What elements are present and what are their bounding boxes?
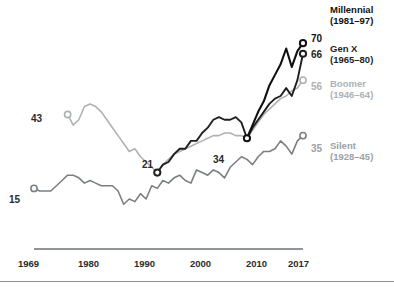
endpoint-marker-boomer-end <box>300 77 306 83</box>
start-value-genx: 21 <box>142 159 153 170</box>
legend-years-boomer: (1946–64) <box>330 89 373 100</box>
legend-years-genx: (1965–80) <box>330 54 373 65</box>
x-tick-2010: 2010 <box>246 258 267 269</box>
start-value-silent: 15 <box>9 194 20 205</box>
x-tick-2017: 2017 <box>288 258 309 269</box>
endpoint-marker-silent-end <box>300 133 306 139</box>
legend-years-millennial: (1981–97) <box>330 15 373 26</box>
series-line-genx <box>157 54 303 173</box>
legend-label-millennial: Millennial <box>330 4 373 15</box>
chart-container: ————————— Millennial (1981–97) Gen X (19… <box>0 0 394 290</box>
series-line-boomer <box>68 80 303 172</box>
legend-item-boomer: Boomer (1946–64) <box>330 78 373 100</box>
x-tick-1969: 1969 <box>18 258 39 269</box>
end-value-silent: 35 <box>311 143 322 154</box>
legend-years-silent: (1928–45) <box>330 151 373 162</box>
endpoint-marker-millennial-end <box>300 40 306 46</box>
legend-item-genx: Gen X (1965–80) <box>330 43 373 65</box>
bottom-divider <box>0 281 394 282</box>
endpoint-marker-gen-x-end <box>300 51 306 57</box>
endpoint-marker-millennial-start <box>244 135 250 141</box>
endpoint-markers-layer <box>31 40 306 191</box>
x-tick-1980: 1980 <box>78 258 99 269</box>
end-value-millennial: 70 <box>311 33 322 44</box>
legend-label-silent: Silent <box>330 140 373 151</box>
endpoint-marker-silent-start <box>31 185 37 191</box>
end-value-boomer: 56 <box>311 81 322 92</box>
series-layer <box>34 43 303 204</box>
series-line-silent <box>34 136 303 205</box>
end-value-genx: 66 <box>311 49 322 60</box>
legend-item-millennial: Millennial (1981–97) <box>330 4 373 26</box>
start-value-boomer: 43 <box>31 113 42 124</box>
endpoint-marker-boomer-start <box>65 111 71 117</box>
legend-item-silent: Silent (1928–45) <box>330 140 373 162</box>
start-value-millennial: 34 <box>213 154 224 165</box>
endpoint-marker-gen-x-start <box>154 169 160 175</box>
legend-label-genx: Gen X <box>330 43 373 54</box>
legend-label-boomer: Boomer <box>330 78 373 89</box>
x-tick-2000: 2000 <box>190 258 211 269</box>
x-tick-1990: 1990 <box>134 258 155 269</box>
